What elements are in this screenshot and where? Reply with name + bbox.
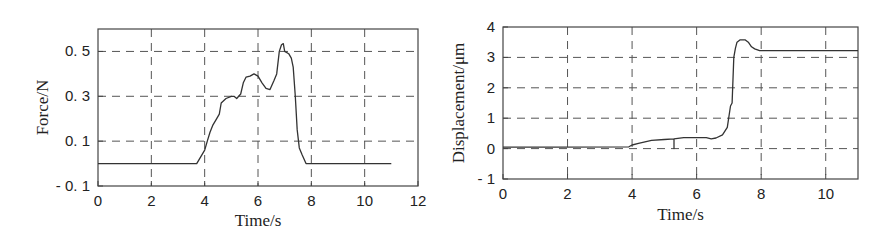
figure: 024681012- 0. 10. 10. 30. 5 Time/s Force… (0, 0, 882, 242)
x-tick-label: 2 (563, 185, 571, 202)
plot-frame (503, 27, 858, 179)
force-chart: 024681012- 0. 10. 10. 30. 5 Time/s Force… (33, 29, 426, 230)
y-tick-label: 1 (487, 109, 495, 126)
x-tick-label: 10 (817, 185, 834, 202)
y-tick-label: 4 (487, 18, 495, 35)
x-tick-label: 8 (757, 185, 765, 202)
x-tick-label: 0 (94, 192, 102, 209)
y-tick-label: 0 (487, 140, 495, 157)
y-tick-label: 3 (487, 48, 495, 65)
x-tick-label: 0 (499, 185, 507, 202)
x-tick-label: 2 (147, 192, 155, 209)
y-tick-label: 0. 5 (65, 42, 90, 59)
y-tick-label: - 0. 1 (56, 177, 90, 194)
y-axis-label: Force/N (33, 80, 52, 136)
x-tick-label: 10 (356, 192, 373, 209)
displacement-chart: 0246810- 101234 Time/s Displacement/μm (449, 18, 858, 224)
y-tick-label: 0. 3 (65, 87, 90, 104)
y-tick-label: 0. 1 (65, 132, 90, 149)
y-tick-label: 2 (487, 79, 495, 96)
displacement-series-line (503, 40, 858, 149)
y-axis-label: Displacement/μm (449, 43, 468, 164)
x-tick-label: 6 (254, 192, 262, 209)
y-tick-label: - 1 (477, 170, 495, 187)
x-tick-label: 6 (692, 185, 700, 202)
x-tick-label: 8 (307, 192, 315, 209)
x-tick-label: 4 (200, 192, 208, 209)
force-series-line (98, 44, 391, 164)
x-axis-label: Time/s (657, 205, 704, 224)
x-tick-label: 12 (410, 192, 427, 209)
x-axis-label: Time/s (235, 211, 282, 230)
x-tick-label: 4 (628, 185, 636, 202)
